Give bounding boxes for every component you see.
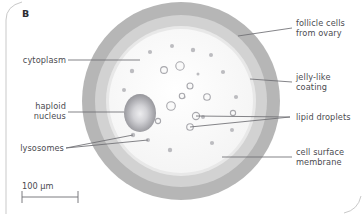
label-cytoplasm: cytoplasm [0,55,66,65]
scale-bar-label: 100 µm [22,181,53,191]
label-lysosomes: lysosomes [0,143,64,153]
label-jelly-like-coating: jelly-like coating [296,72,362,92]
scale-bar [22,191,78,203]
panel-letter: B [22,8,29,19]
page-border-right [344,196,361,213]
figure-panel-b: B cytoplasm haploid nucleus lysosomes fo… [0,0,362,215]
label-haploid-nucleus: haploid nucleus [0,101,66,121]
label-follicle-cells: follicle cells from ovary [296,18,362,38]
label-cell-surface-membrane: cell surface membrane [296,147,362,167]
label-lipid-droplets: lipid droplets [296,112,362,122]
haploid-nucleus-shape [124,94,156,132]
